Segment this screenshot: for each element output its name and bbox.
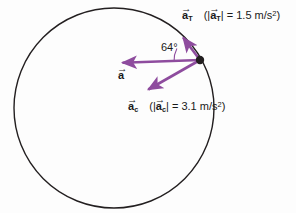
label-tangential-acceleration: →aT (|→aT| = 1.5 m/s2) [182,10,280,22]
units-tangential: m/s [255,9,273,21]
vector-arrow-accent-icon: → [127,95,137,105]
close-paren-tangential: ) [276,9,280,21]
vector-resultant [123,60,201,63]
value-centripetal: 3.1 [181,100,196,112]
abs-bar-right-tangential: | [221,10,224,21]
angle-label-64-degrees: 64° [161,42,178,53]
vector-symbol-a: →a [118,70,124,81]
vector-centripetal [148,60,200,90]
subscript-c: c [134,105,138,114]
label-resultant-acceleration: →a [118,70,124,81]
equals-centripetal: = [172,100,178,112]
vector-arrow-accent-icon: → [155,95,165,105]
particle-point [196,56,204,64]
vector-arrow-accent-icon: → [209,4,219,14]
vector-symbol-ac-inner: →a [156,101,162,112]
vector-arrow-accent-icon: → [117,64,127,74]
subscript-t: T [188,14,192,23]
vector-symbol-ac: →a [128,101,134,112]
abs-bar-right-centripetal: | [166,101,169,112]
label-centripetal-acceleration: →ac (|→ac| = 3.1 m/s2) [128,101,225,113]
physics-vector-figure: →aT (|→aT| = 1.5 m/s2) →ac (|→ac| = 3.1 … [0,0,296,213]
close-paren-centripetal: ) [222,100,226,112]
value-tangential: 1.5 [236,9,251,21]
vector-symbol-at: →a [182,10,188,21]
units-centripetal: m/s [200,100,218,112]
vector-symbol-at-inner: →a [210,10,216,21]
vector-arrow-accent-icon: → [181,4,191,14]
equals-tangential: = [227,9,233,21]
